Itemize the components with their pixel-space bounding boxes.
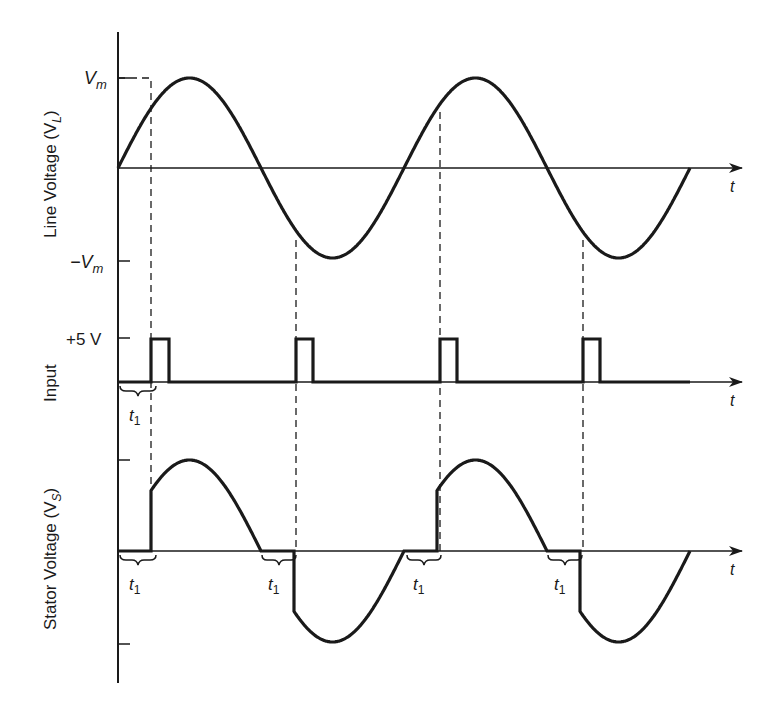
- t-label-line: t: [730, 178, 735, 195]
- brace-stator-4: [548, 555, 582, 565]
- label-neg-vm: −Vm: [70, 252, 104, 276]
- input-pulse-train: [118, 339, 690, 382]
- t-label-stator: t: [730, 561, 735, 578]
- label-5v: +5 V: [66, 330, 102, 349]
- brace-stator-1: [120, 555, 156, 565]
- dashed-guides: [118, 78, 583, 551]
- t1-label-stator-2: t1: [268, 575, 280, 597]
- ylabel-input: Input: [41, 364, 60, 402]
- ylabel-line-voltage: Line Voltage (VL): [41, 110, 64, 238]
- label-vm: Vm: [84, 68, 107, 92]
- t1-label-stator-1: t1: [129, 575, 141, 597]
- brace-stator-2: [262, 555, 296, 565]
- t1-label-stator-3: t1: [413, 575, 425, 597]
- t1-label-stator-4: t1: [554, 575, 566, 597]
- t-label-input: t: [730, 392, 735, 409]
- brace-stator-3: [407, 555, 441, 565]
- timing-diagram: t t t Vm −Vm +5 V Line Voltage (VL) Inpu…: [0, 0, 777, 714]
- brace-group: [120, 386, 582, 565]
- ylabel-stator-voltage: Stator Voltage (VS): [41, 488, 64, 630]
- t1-label-input: t1: [129, 406, 141, 428]
